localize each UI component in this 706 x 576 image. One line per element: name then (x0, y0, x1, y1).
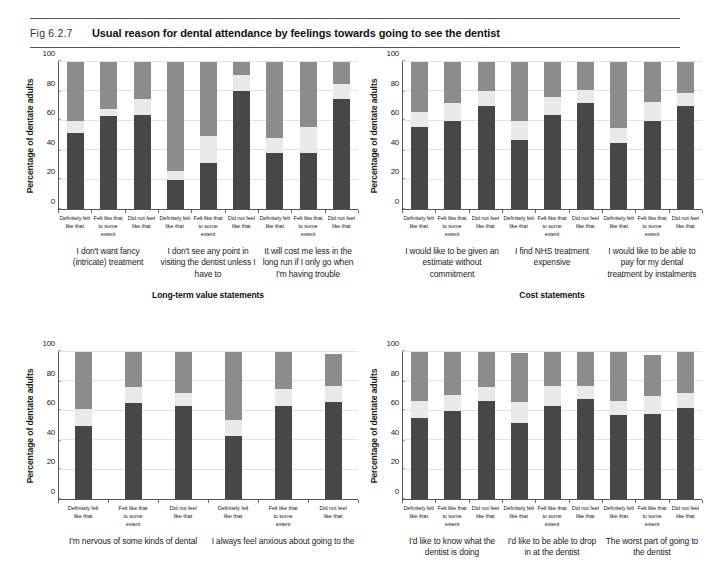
bar-group (503, 62, 603, 209)
bar-segment (677, 393, 694, 408)
stacked-bar[interactable] (577, 352, 594, 499)
x-tick-mark (325, 210, 326, 213)
bar-segment (644, 355, 661, 396)
x-tick-mark (191, 210, 192, 213)
bar-segment (444, 103, 461, 121)
x-category-label: Did not feel like that (167, 505, 199, 529)
stacked-bar[interactable] (511, 62, 528, 209)
bar-segment (644, 414, 661, 499)
bar-group (209, 352, 359, 499)
bar-segment (266, 62, 283, 138)
y-tick-label: 0 (395, 487, 399, 496)
bar-segment (225, 352, 242, 420)
stacked-bar[interactable] (167, 62, 184, 209)
stacked-bar[interactable] (577, 62, 594, 209)
y-tick-label: 60 (391, 108, 399, 117)
x-category-group: Definitely felt like thatFelt like that … (602, 215, 702, 239)
stacked-bar[interactable] (411, 62, 428, 209)
x-axis-tick-row (402, 500, 702, 503)
statement-captions: I don't want fancy (intricate) treatment… (58, 246, 358, 281)
stacked-bar[interactable] (75, 352, 92, 499)
bar-segment (511, 353, 528, 402)
x-tick-mark (569, 210, 570, 213)
x-axis-categories: Definitely felt like thatFelt like that … (402, 503, 702, 529)
bar-segment (544, 97, 561, 115)
bar-segment (677, 93, 694, 106)
plot-area: Percentage of dentate adults020406080100 (366, 352, 702, 500)
y-axis-label: Percentage of dentate adults (22, 62, 38, 210)
stacked-bar[interactable] (478, 352, 495, 499)
x-tick-mark (635, 210, 636, 213)
stacked-bar[interactable] (677, 352, 694, 499)
bar-group (602, 62, 702, 209)
bar-segment (75, 426, 92, 500)
stacked-bar[interactable] (444, 352, 461, 499)
stacked-bar[interactable] (644, 62, 661, 209)
x-axis-tick-row (58, 500, 358, 503)
y-axis-ticks: 020406080100 (38, 352, 58, 500)
x-category-label: Definitely felt like that (603, 505, 635, 529)
stacked-bar[interactable] (610, 62, 627, 209)
bar-segment (644, 121, 661, 209)
stacked-bar[interactable] (125, 352, 142, 499)
stacked-bar[interactable] (266, 62, 283, 209)
x-category-label: Felt like that to some extent (436, 505, 468, 529)
bar-segment (125, 403, 142, 499)
stacked-bar[interactable] (478, 62, 495, 209)
stacked-bar[interactable] (511, 352, 528, 499)
x-tick-mark (258, 500, 259, 503)
statement-label: I would like to be able to pay for my de… (602, 246, 702, 281)
stacked-bar[interactable] (67, 62, 84, 209)
x-tick-mark (535, 210, 536, 213)
stacked-bar[interactable] (610, 352, 627, 499)
stacked-bar[interactable] (677, 62, 694, 209)
bar-segment (511, 62, 528, 121)
stacked-bar[interactable] (544, 352, 561, 499)
bars-container (403, 62, 702, 209)
stacked-bar[interactable] (175, 352, 192, 499)
bar-segment (444, 121, 461, 209)
stacked-bar[interactable] (275, 352, 292, 499)
stacked-bar[interactable] (225, 352, 242, 499)
stacked-bar[interactable] (134, 62, 151, 209)
bar-segment (134, 99, 151, 115)
stacked-bar[interactable] (644, 352, 661, 499)
stacked-bar[interactable] (300, 62, 317, 209)
bar-segment (411, 127, 428, 209)
bar-segment (610, 128, 627, 143)
y-axis-label: Percentage of dentate adults (366, 352, 382, 500)
x-category-label: Did not feel like that (125, 215, 157, 239)
stacked-bar[interactable] (411, 352, 428, 499)
x-category-label: Felt like that to some extent (536, 215, 568, 239)
bar-segment (644, 62, 661, 102)
bar-group (403, 62, 503, 209)
stacked-bar[interactable] (544, 62, 561, 209)
bar-segment (200, 62, 217, 136)
x-tick-mark (569, 500, 570, 503)
bar-segment (175, 352, 192, 393)
bar-segment (644, 102, 661, 121)
bar-segment (125, 387, 142, 403)
bar-segment (134, 115, 151, 209)
stacked-bar[interactable] (333, 62, 350, 209)
statement-label: I always feel anxious about going to the (208, 536, 358, 548)
x-category-group: Definitely felt like thatFelt like that … (158, 215, 258, 239)
stacked-bar[interactable] (444, 62, 461, 209)
y-tick-label: 20 (47, 167, 55, 176)
figure-header: Fig 6.2.7 Usual reason for dental attend… (30, 18, 680, 48)
bar-segment (544, 352, 561, 386)
y-tick-label: 60 (391, 398, 399, 407)
x-tick-mark (358, 500, 359, 503)
stacked-bar[interactable] (100, 62, 117, 209)
bar-group (403, 352, 503, 499)
bar-segment (511, 402, 528, 423)
bar-segment (610, 62, 627, 128)
bar-group (602, 352, 702, 499)
stacked-bar[interactable] (233, 62, 250, 209)
bar-segment (233, 62, 250, 75)
statement-captions: I'm nervous of some kinds of dentalI alw… (58, 536, 358, 548)
figure-page: Fig 6.2.7 Usual reason for dental attend… (0, 0, 706, 576)
stacked-bar[interactable] (200, 62, 217, 209)
stacked-bar[interactable] (325, 352, 342, 499)
y-tick-label: 60 (47, 398, 55, 407)
